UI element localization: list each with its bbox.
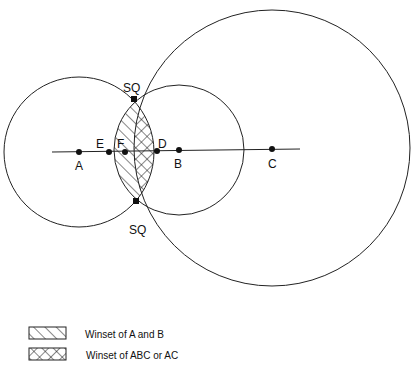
legend: Winset of A and B Winset of ABC or AC (29, 327, 178, 361)
point-e (106, 149, 112, 155)
point-a (76, 149, 82, 155)
point-sq-top (131, 96, 137, 102)
point-sq-bottom (133, 198, 139, 204)
label-a: A (75, 159, 83, 173)
label-sq-bottom: SQ (129, 223, 146, 237)
point-c (269, 146, 275, 152)
policy-axis-line (52, 149, 300, 152)
point-b (176, 147, 182, 153)
label-f: F (117, 137, 124, 151)
legend-label-abc: Winset of ABC or AC (86, 350, 178, 361)
legend-swatch-single-hatch (29, 327, 66, 339)
winset-abc-region (0, 0, 414, 368)
legend-label-ab: Winset of A and B (85, 329, 164, 340)
winset-diagram: A E F D B C SQ SQ Winset of A and B Wins… (0, 0, 414, 368)
label-d: D (158, 137, 167, 151)
label-sq-top: SQ (123, 81, 140, 95)
label-b: B (174, 157, 182, 171)
legend-swatch-cross-hatch (29, 348, 66, 360)
label-c: C (268, 157, 277, 171)
label-e: E (96, 137, 104, 151)
